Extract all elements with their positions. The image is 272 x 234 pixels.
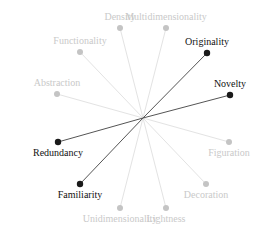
- node-label-abstraction: Abstraction: [34, 77, 81, 88]
- node-label-novelty: Novelty: [214, 78, 246, 89]
- spoke-redundancy: [58, 118, 143, 142]
- node-label-decoration: Decoration: [184, 189, 228, 200]
- node-label-figuration: Figuration: [208, 147, 250, 158]
- node-dot-decoration: [203, 181, 209, 187]
- radial-diagram-lines: [0, 0, 272, 234]
- spoke-decoration: [143, 118, 206, 184]
- node-dot-multidimensionality: [163, 25, 169, 31]
- node-label-functionality: Functionality: [53, 35, 106, 46]
- node-dot-lightness: [163, 205, 169, 211]
- spoke-functionality: [80, 52, 143, 118]
- node-dot-originality: [204, 50, 210, 56]
- node-dot-abstraction: [54, 91, 60, 97]
- node-dot-familiarity: [77, 181, 83, 187]
- node-dot-functionality: [77, 49, 83, 55]
- spoke-originality: [143, 53, 207, 118]
- spoke-familiarity: [80, 118, 143, 184]
- node-label-familiarity: Familiarity: [58, 189, 102, 200]
- node-label-originality: Originality: [185, 36, 229, 47]
- spoke-abstraction: [57, 94, 143, 118]
- node-dot-redundancy: [55, 139, 61, 145]
- node-dot-density: [117, 25, 123, 31]
- node-dot-figuration: [226, 139, 232, 145]
- radial-diagram: DensityMultidimensionalityFunctionalityA…: [0, 0, 272, 234]
- spoke-figuration: [143, 118, 229, 142]
- spoke-novelty: [143, 95, 230, 118]
- spoke-lightness: [143, 118, 166, 208]
- spoke-unidimensionality: [120, 118, 143, 208]
- node-dot-novelty: [227, 92, 233, 98]
- spoke-multidimensionality: [143, 28, 166, 118]
- node-label-redundancy: Redundancy: [33, 147, 83, 158]
- node-dot-unidimensionality: [117, 205, 123, 211]
- node-label-lightness: Lightness: [147, 213, 186, 224]
- spoke-density: [120, 28, 143, 118]
- node-label-multidimensionality: Multidimensionality: [125, 11, 207, 22]
